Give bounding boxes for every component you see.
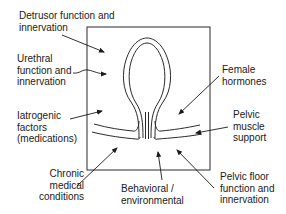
label-pelvic-floor-function: Pelvic floor function and innervation xyxy=(220,171,275,206)
label-urethral-function: Urethral function and innervation xyxy=(17,53,72,88)
arrow-hormones xyxy=(179,76,219,114)
pelvic-muscle-band-right-lower xyxy=(154,134,202,139)
bladder-inner-wall xyxy=(129,43,165,138)
pelvic-muscle-band-left-upper xyxy=(94,121,139,131)
label-female-hormones: Female hormones xyxy=(222,64,266,87)
pelvic-muscle-band-left-lower xyxy=(92,132,140,139)
pelvic-muscle-band-right-upper xyxy=(155,121,200,131)
arrow-pelvic-muscle xyxy=(196,127,228,133)
arrow-urethral xyxy=(73,70,106,74)
pelvis-frame xyxy=(87,27,210,170)
label-chronic-conditions: Chronic medical conditions xyxy=(39,168,84,203)
label-detrusor-function: Detrusor function and innervation xyxy=(19,10,115,33)
arrow-behavioral xyxy=(158,152,162,180)
label-pelvic-muscle-support: Pelvic muscle support xyxy=(233,109,266,144)
label-iatrogenic-factors: Iatrogenic factors (medications) xyxy=(17,110,77,145)
label-behavioral-environmental: Behavioral / environmental xyxy=(121,183,184,206)
continence-factors-diagram: Detrusor function and innervation Urethr… xyxy=(0,0,286,214)
arrow-detrusor xyxy=(62,35,104,52)
